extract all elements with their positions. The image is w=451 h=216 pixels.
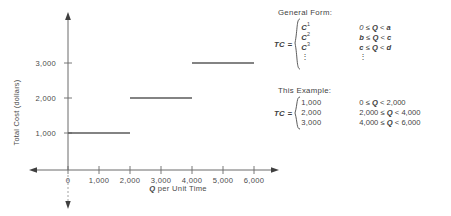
brace-glyph: [293, 18, 301, 70]
general-cost-exponent-2: 2: [307, 31, 310, 37]
this-example-condition-column: 0 ≤ Q < 2,000 2,000 ≤ Q < 4,000: [359, 98, 451, 128]
example-cond-2-upper-op: <: [395, 108, 399, 117]
general-cond-1-upper: a: [387, 23, 391, 32]
example-cost-row-2: 2,000: [301, 108, 335, 118]
example-cost-2: 2,000: [301, 108, 321, 117]
example-cost-row-1: 1,000: [301, 98, 335, 108]
general-form-cases: C1 C2 C3 ⋮ 0: [301, 23, 451, 65]
example-cond-3-upper: 6,000: [401, 118, 420, 127]
example-cond-2-lower: 2,000: [359, 108, 378, 117]
example-cost-3: 3,000: [301, 118, 321, 127]
example-cond-1-lower: 0: [359, 98, 363, 107]
example-cond-3-var: Q: [387, 118, 393, 127]
x-axis-title-rest: per Unit Time: [155, 184, 206, 193]
y-tick-label-1000: 1,000: [22, 129, 56, 138]
general-condition-row-2: b ≤ Q < c: [359, 33, 451, 43]
general-cond-2-lower-op: ≤: [366, 33, 370, 42]
general-condition-continuation: ⋮: [359, 53, 451, 65]
general-form-block: General Form: TC = C1 C2: [274, 8, 451, 70]
example-cond-3-lower: 4,000: [359, 118, 378, 127]
general-condition-vdots: ⋮: [359, 55, 367, 59]
y-tick-label-2000: 2,000: [22, 94, 56, 103]
this-example-cost-column: 1,000 2,000 3,000: [301, 98, 335, 128]
general-cond-1-upper-op: <: [380, 23, 384, 32]
step-cost-figure: Total Cost (dollars) 3,000 2,000 1,000 0…: [0, 0, 451, 216]
general-cond-1-lower: 0: [359, 23, 363, 32]
general-cond-3-upper: d: [387, 43, 392, 52]
general-cost-vdots: ⋮: [301, 55, 309, 59]
y-axis-arrow-down: [65, 201, 70, 209]
example-cond-1-var: Q: [372, 98, 378, 107]
general-form-brace: [293, 18, 301, 70]
example-cond-1-upper: 2,000: [387, 98, 406, 107]
general-form-condition-column: 0 ≤ Q < a b ≤ Q < c: [359, 23, 451, 65]
general-cond-2-upper: c: [387, 33, 391, 42]
general-form-equation: TC = C1 C2 C3: [274, 18, 451, 70]
general-condition-row-1: 0 ≤ Q < a: [359, 23, 451, 33]
general-cost-continuation: ⋮: [301, 53, 335, 65]
example-cond-1-upper-op: <: [380, 98, 384, 107]
y-axis-arrow-up: [65, 12, 71, 20]
general-form-heading: General Form:: [278, 8, 451, 17]
example-cond-3-upper-op: <: [395, 118, 399, 127]
this-example-lhs: TC =: [274, 109, 292, 118]
this-example-block: This Example: TC = 1,000 2,000: [274, 86, 451, 130]
y-axis-title: Total Cost (dollars): [12, 53, 21, 173]
x-axis-arrow-right: [271, 167, 279, 173]
example-condition-row-3: 4,000 ≤ Q < 6,000: [359, 118, 451, 128]
general-cond-2-upper-op: <: [380, 33, 384, 42]
general-cost-exponent-3: 3: [307, 41, 310, 47]
example-cond-2-lower-op: ≤: [380, 108, 384, 117]
general-condition-row-3: c ≤ Q < d: [359, 43, 451, 53]
x-axis-title: Q per Unit Time: [108, 184, 248, 193]
general-cond-3-var: Q: [372, 43, 378, 52]
this-example-brace: [293, 96, 301, 130]
example-condition-row-1: 0 ≤ Q < 2,000: [359, 98, 451, 108]
general-cost-exponent-1: 1: [307, 21, 310, 27]
general-form-lhs: TC =: [274, 40, 292, 49]
general-cond-3-upper-op: <: [380, 43, 384, 52]
example-cond-2-upper: 4,000: [401, 108, 420, 117]
general-cond-1-var: Q: [372, 23, 378, 32]
example-condition-row-2: 2,000 ≤ Q < 4,000: [359, 108, 451, 118]
brace-glyph: [293, 96, 301, 130]
this-example-heading: This Example:: [278, 86, 451, 95]
example-cost-row-3: 3,000: [301, 118, 335, 128]
example-cond-2-var: Q: [387, 108, 393, 117]
this-example-equation: TC = 1,000 2,000 3,0: [274, 96, 451, 130]
example-cond-3-lower-op: ≤: [380, 118, 384, 127]
general-cond-3-lower: c: [359, 43, 363, 52]
example-cond-1-lower-op: ≤: [366, 98, 370, 107]
general-cond-3-lower-op: ≤: [366, 43, 370, 52]
general-cond-1-lower-op: ≤: [366, 23, 370, 32]
y-tick-label-3000: 3,000: [22, 59, 56, 68]
x-tick-label-0: 0: [51, 176, 85, 185]
x-axis-arrow-left: [29, 167, 37, 173]
this-example-cases: 1,000 2,000 3,000 0 ≤ Q: [301, 98, 451, 128]
general-form-cost-column: C1 C2 C3 ⋮: [301, 23, 335, 65]
general-cond-2-var: Q: [372, 33, 378, 42]
general-cond-2-lower: b: [359, 33, 364, 42]
example-cost-1: 1,000: [301, 98, 321, 107]
